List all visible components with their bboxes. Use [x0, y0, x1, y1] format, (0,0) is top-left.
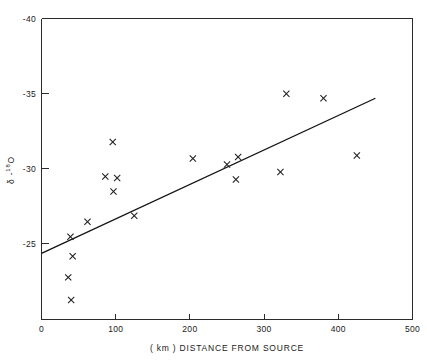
x-ticklabel-2: 200	[182, 324, 197, 334]
y-ticklabel-1: -35	[23, 89, 36, 99]
chart-figure: -40 -35 -30 -25 0 100 200 300 400 500 ( …	[0, 0, 427, 361]
y-axis-ticklabels: -40 -35 -30 -25	[23, 14, 36, 249]
data-point-marker	[233, 176, 239, 182]
data-point-marker	[277, 169, 283, 175]
data-point-marker	[102, 173, 108, 179]
data-point-marker	[110, 139, 116, 145]
x-ticklabel-1: 100	[108, 324, 123, 334]
data-point-marker	[65, 274, 71, 280]
data-point-marker	[67, 234, 73, 240]
x-axis-ticklabels: 0 100 200 300 400 500	[39, 324, 420, 334]
plot-frame	[42, 19, 413, 320]
data-point-marker	[70, 253, 76, 259]
y-ticklabel-3: -25	[23, 239, 36, 249]
data-point-marker	[131, 213, 137, 219]
data-points	[65, 91, 360, 303]
y-axis-title-group: δ -18O	[5, 156, 16, 184]
x-ticklabel-0: 0	[39, 324, 44, 334]
scatter-plot-svg: -40 -35 -30 -25 0 100 200 300 400 500 ( …	[0, 0, 427, 361]
y-axis-ticks	[42, 19, 49, 244]
data-point-marker	[68, 297, 74, 303]
x-ticklabel-3: 300	[257, 324, 272, 334]
x-axis-title: ( km ) DISTANCE FROM SOURCE	[150, 343, 304, 353]
data-point-marker	[235, 154, 241, 160]
data-point-marker	[354, 152, 360, 158]
x-ticklabel-4: 400	[331, 324, 346, 334]
data-point-marker	[283, 91, 289, 97]
trendline-segment	[42, 98, 376, 253]
data-point-marker	[114, 175, 120, 181]
x-axis-ticks	[42, 314, 413, 320]
y-ticklabel-2: -30	[23, 164, 36, 174]
y-axis-title-element: O	[6, 156, 16, 163]
x-ticklabel-5: 500	[405, 324, 420, 334]
data-point-marker	[110, 188, 116, 194]
trendline	[42, 98, 376, 253]
y-axis-title-delta: δ -	[6, 172, 16, 184]
data-point-marker	[190, 155, 196, 161]
data-point-marker	[320, 95, 326, 101]
y-axis-title-superscript: 18	[5, 163, 11, 171]
data-point-marker	[84, 219, 90, 225]
y-axis-title: δ -18O	[5, 156, 16, 184]
y-ticklabel-0: -40	[23, 14, 36, 24]
